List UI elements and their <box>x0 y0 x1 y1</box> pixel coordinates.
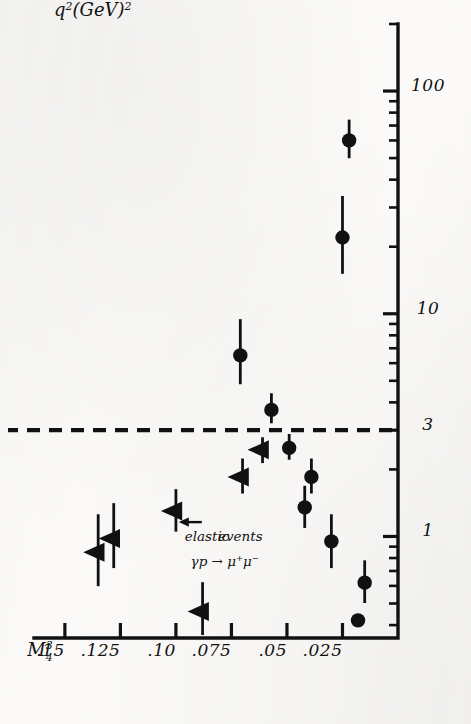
x-tick-label: 1 <box>422 520 433 540</box>
data-point[interactable] <box>324 514 338 568</box>
plot-ink-layer: 1310100q2(GeV)2.025.05.075.10.125.15M34e… <box>0 0 471 724</box>
marker-filled-triangle <box>248 440 269 459</box>
plot-area: 1310100q2(GeV)2.025.05.075.10.125.15M34e… <box>0 0 471 724</box>
data-point[interactable] <box>335 196 349 274</box>
annotations: elasticeventsγp → μ⁺μ⁻ <box>179 518 263 569</box>
data-point[interactable] <box>161 489 182 531</box>
data-series-circles <box>233 120 372 628</box>
marker-filled-circle <box>342 133 356 147</box>
x-tick-label: 100 <box>411 75 445 95</box>
marker-filled-circle <box>233 348 247 362</box>
x-axis-label: q2(GeV)2 <box>54 0 132 20</box>
x-axis-ticks <box>383 24 398 625</box>
data-point[interactable] <box>298 486 312 528</box>
marker-filled-triangle <box>188 602 209 621</box>
axes-frame <box>34 24 398 638</box>
y-tick-label: .125 <box>81 641 121 661</box>
marker-filled-circle <box>304 470 318 484</box>
data-point[interactable] <box>351 613 365 627</box>
data-point[interactable] <box>233 319 247 384</box>
x-axis-title: q2(GeV)2 <box>54 0 132 20</box>
data-point[interactable] <box>357 560 371 603</box>
x-tick-label: 3 <box>422 414 433 434</box>
marker-filled-triangle <box>228 467 249 486</box>
data-point[interactable] <box>264 393 278 423</box>
data-point[interactable] <box>83 514 104 586</box>
marker-filled-circle <box>351 613 365 627</box>
x-tick-label: 10 <box>417 298 440 318</box>
marker-filled-circle <box>282 441 296 455</box>
data-point[interactable] <box>228 459 249 494</box>
y-tick-label: .025 <box>303 641 343 661</box>
marker-filled-triangle <box>161 502 182 521</box>
annotation-elastic-line2: events <box>218 528 263 544</box>
marker-filled-circle <box>298 500 312 514</box>
y-tick-label: .05 <box>258 641 287 661</box>
marker-filled-circle <box>324 534 338 548</box>
data-point[interactable] <box>282 434 296 460</box>
marker-filled-circle <box>357 575 371 589</box>
data-point[interactable] <box>248 437 269 463</box>
marker-filled-circle <box>335 230 349 244</box>
y-tick-label: .10 <box>147 641 176 661</box>
scanned-figure: 1310100q2(GeV)2.025.05.075.10.125.15M34e… <box>0 0 471 724</box>
rotated-plot-container: 1310100q2(GeV)2.025.05.075.10.125.15M34e… <box>0 0 471 724</box>
annotation-reaction: γp → μ⁺μ⁻ <box>191 553 259 569</box>
annotation-pointer-arrow <box>179 518 202 527</box>
y-tick-label: .075 <box>192 641 232 661</box>
marker-filled-circle <box>264 403 278 417</box>
data-point[interactable] <box>342 120 356 159</box>
y-axis-tick-labels: .025.05.075.10.125.15 <box>36 641 342 661</box>
data-point[interactable] <box>304 459 318 494</box>
data-point[interactable] <box>188 582 209 635</box>
marker-filled-triangle <box>83 543 104 562</box>
x-axis-tick-labels: 1310100 <box>411 75 445 540</box>
